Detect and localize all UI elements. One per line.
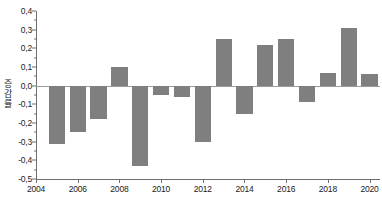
bar-2018 (320, 73, 336, 86)
bar-2010 (153, 86, 169, 95)
y-tick-minor (34, 169, 37, 170)
y-tick-label: -0,2 (18, 118, 32, 128)
x-tick-label: 2012 (194, 184, 212, 194)
x-tick-label: 2020 (361, 184, 379, 194)
y-axis-label: 증감률 (1, 11, 15, 179)
bar-2011 (174, 86, 190, 97)
x-tick-mark (119, 179, 120, 183)
bar-2008 (111, 67, 127, 86)
y-tick-minor (34, 39, 37, 40)
x-tick-label: 2010 (152, 184, 170, 194)
y-tick-mark (32, 141, 36, 142)
x-tick-label: 2018 (319, 184, 337, 194)
x-tick-label: 2008 (110, 184, 128, 194)
x-tick-label: 2004 (27, 184, 45, 194)
y-tick-minor (34, 20, 37, 21)
bar-2015 (257, 45, 273, 86)
bar-2020 (361, 74, 377, 85)
bar-2007 (90, 86, 106, 120)
x-tick-mark (286, 179, 287, 183)
x-tick-mark (370, 179, 371, 183)
y-tick-label: 0,4 (21, 6, 32, 16)
y-tick-label: -0,5 (18, 174, 32, 184)
bar-2006 (70, 86, 86, 133)
x-tick-mark (244, 179, 245, 183)
x-tick-mark (161, 179, 162, 183)
y-tick-minor (34, 57, 37, 58)
y-tick-mark (32, 85, 36, 86)
y-tick-minor (34, 95, 37, 96)
y-tick-minor (34, 151, 37, 152)
x-tick-label: 2016 (277, 184, 295, 194)
x-tick-mark (203, 179, 204, 183)
y-tick-minor (34, 76, 37, 77)
x-tick-label: 2006 (69, 184, 87, 194)
bar-2019 (341, 28, 357, 86)
y-tick-label: 0,0 (21, 81, 32, 91)
y-tick-label: -0,1 (18, 99, 32, 109)
x-tick-label: 2014 (235, 184, 253, 194)
y-axis-label-text: 증감률 (4, 80, 12, 109)
y-tick-mark (32, 160, 36, 161)
y-tick-mark (32, 123, 36, 124)
bar-2014 (236, 86, 252, 114)
y-tick-mark (32, 104, 36, 105)
y-tick-label: 0,1 (21, 62, 32, 72)
y-tick-mark (32, 29, 36, 30)
y-tick-label: -0,4 (18, 155, 32, 165)
bar-2005 (49, 86, 65, 144)
y-tick-mark (32, 67, 36, 68)
x-tick-mark (328, 179, 329, 183)
bar-2017 (299, 86, 315, 103)
bar-chart: 증감률 0,40,30,20,10,0-0,1-0,2-0,3-0,4-0,5 … (0, 0, 382, 208)
y-tick-minor (34, 132, 37, 133)
y-tick-label: -0,3 (18, 137, 32, 147)
bar-2009 (132, 86, 148, 166)
y-tick-mark (32, 11, 36, 12)
bar-2012 (195, 86, 211, 142)
y-tick-label: 0,2 (21, 43, 32, 53)
y-tick-mark (32, 48, 36, 49)
y-tick-minor (34, 113, 37, 114)
x-tick-mark (36, 179, 37, 183)
bar-2016 (278, 39, 294, 86)
bar-2013 (216, 39, 232, 86)
plot-area: 0,40,30,20,10,0-0,1-0,2-0,3-0,4-0,5 2004… (36, 11, 380, 179)
y-tick-label: 0,3 (21, 25, 32, 35)
x-tick-mark (78, 179, 79, 183)
